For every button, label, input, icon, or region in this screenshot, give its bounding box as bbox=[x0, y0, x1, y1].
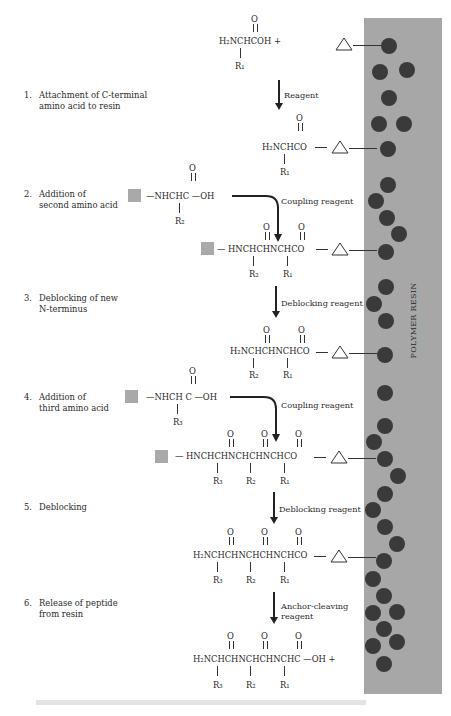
side-chain: R₁ bbox=[280, 575, 290, 585]
resin-bead-icon bbox=[380, 177, 396, 193]
side-chain: R₁ bbox=[280, 680, 290, 690]
resin-bead-icon bbox=[365, 638, 381, 654]
reagent-line: reagent bbox=[281, 611, 313, 621]
step-5-label: 5.Deblocking bbox=[24, 502, 87, 513]
figure-caption-faded bbox=[36, 700, 366, 705]
resin-bead-icon bbox=[377, 519, 393, 535]
step-1-label: 1.Attachment of C-terminal amino acid to… bbox=[24, 90, 147, 112]
step-text: amino acid to resin bbox=[24, 101, 147, 112]
resin-bead-icon bbox=[365, 605, 381, 621]
anchor-triangle-icon bbox=[331, 345, 349, 359]
resin-bead-icon bbox=[380, 141, 396, 157]
step-text: Release of peptide bbox=[39, 598, 118, 608]
resin-bead-icon bbox=[399, 62, 415, 78]
step-text: third amino acid bbox=[24, 403, 109, 414]
reagent-label: Coupling reagent bbox=[281, 196, 353, 206]
step-2-label: 2.Addition of second amino acid bbox=[24, 189, 118, 211]
bond bbox=[314, 457, 326, 458]
carbonyl-o: O bbox=[263, 325, 270, 335]
carbonyl-o: O bbox=[227, 527, 234, 537]
resin-bead-icon bbox=[366, 434, 382, 450]
anchor-triangle-icon bbox=[330, 450, 348, 464]
formula: H₂NCHCOH + bbox=[219, 36, 281, 46]
carbonyl-o: O bbox=[189, 163, 196, 173]
carbonyl-o: O bbox=[227, 429, 234, 439]
carbonyl-o: O bbox=[263, 222, 270, 232]
coupling-arrow-icon bbox=[228, 392, 280, 450]
step-6-label: 6.Release of peptide from resin bbox=[24, 598, 118, 620]
resin-bead-icon bbox=[376, 656, 392, 672]
reagent-label: Anchor-cleaving reagent bbox=[281, 601, 348, 621]
carbonyl-o: O bbox=[227, 631, 234, 641]
carbonyl-o: O bbox=[189, 366, 196, 376]
resin-bead-icon bbox=[371, 116, 387, 132]
side-chain: R₂ bbox=[249, 269, 259, 279]
side-chain: R₁ bbox=[283, 269, 293, 279]
formula: H₂NCHCO bbox=[262, 142, 307, 152]
carbonyl-o: O bbox=[298, 325, 305, 335]
side-chain: R₃ bbox=[173, 417, 183, 427]
reagent-label: Deblocking reagent bbox=[281, 298, 363, 308]
resin-bead-icon bbox=[378, 244, 394, 260]
anchor-bond bbox=[349, 148, 377, 149]
anchor-bond bbox=[348, 458, 376, 459]
resin-bead-icon bbox=[396, 116, 412, 132]
protecting-group-icon bbox=[201, 242, 214, 255]
resin-bead-icon bbox=[377, 418, 393, 434]
resin-bead-icon bbox=[391, 226, 407, 242]
formula: — HNCHCHNCHCHNCHCO bbox=[175, 451, 297, 461]
anchor-triangle-icon bbox=[335, 37, 353, 51]
side-chain: R₃ bbox=[213, 680, 223, 690]
formula: H₂NCHCHNCHCO bbox=[230, 346, 310, 356]
step-number: 6. bbox=[24, 598, 39, 609]
formula: H₂NCHCHNCHCHNCHC —OH + bbox=[193, 654, 336, 664]
carbonyl-o: O bbox=[296, 113, 303, 123]
side-chain: R₃ bbox=[213, 575, 223, 585]
carbonyl-o: O bbox=[261, 631, 268, 641]
reagent-label: Deblocking reagent bbox=[279, 504, 361, 514]
side-chain: R₁ bbox=[280, 476, 290, 486]
resin-bead-icon bbox=[389, 634, 405, 650]
resin-bead-icon bbox=[378, 279, 394, 295]
side-chain: R₂ bbox=[246, 575, 256, 585]
carbonyl-o: O bbox=[261, 429, 268, 439]
side-chain: R₁ bbox=[280, 167, 290, 177]
reagent-label: Reagent bbox=[284, 90, 319, 100]
formula: —NHCHC —OH bbox=[146, 191, 214, 201]
resin-bead-icon bbox=[377, 451, 393, 467]
protecting-group-icon bbox=[128, 189, 141, 202]
bond bbox=[315, 147, 327, 148]
step-text: Deblocking of new bbox=[39, 293, 118, 303]
resin-bead-icon bbox=[378, 313, 394, 329]
coupling-arrow-icon bbox=[230, 190, 282, 250]
step-number: 1. bbox=[24, 90, 39, 101]
formula: H₂NCHCHNCHCHNCHCO bbox=[193, 550, 307, 560]
anchor-triangle-icon bbox=[331, 140, 349, 154]
step-text: Deblocking bbox=[39, 502, 87, 512]
carbonyl-o: O bbox=[251, 14, 258, 24]
step-number: 2. bbox=[24, 189, 39, 200]
anchor-triangle-icon bbox=[330, 549, 348, 563]
formula: — HNCHCHNCHCO bbox=[217, 244, 304, 254]
formula: —NHCH C —OH bbox=[146, 392, 217, 402]
resin-label: POLYMER RESIN bbox=[409, 281, 418, 361]
resin-bead-icon bbox=[377, 486, 393, 502]
step-4-label: 4.Addition of third amino acid bbox=[24, 392, 109, 414]
bond bbox=[316, 249, 328, 250]
side-chain: R₂ bbox=[175, 216, 185, 226]
step-text: Addition of bbox=[39, 189, 86, 199]
reagent-label: Coupling reagent bbox=[281, 400, 353, 410]
step-text: Attachment of C-terminal bbox=[39, 90, 147, 100]
resin-bead-icon bbox=[379, 210, 395, 226]
carbonyl-o: O bbox=[295, 527, 302, 537]
anchor-triangle-icon bbox=[331, 242, 349, 256]
protecting-group-icon bbox=[125, 390, 138, 403]
step-text: N-terminus bbox=[24, 304, 118, 315]
anchor-bond bbox=[348, 557, 376, 558]
resin-bead-icon bbox=[377, 385, 393, 401]
anchor-bond bbox=[349, 250, 377, 251]
side-chain: R₃ bbox=[213, 476, 223, 486]
resin-bead-icon bbox=[377, 347, 393, 363]
reagent-line: Anchor-cleaving bbox=[281, 601, 348, 611]
resin-bead-icon bbox=[376, 621, 392, 637]
